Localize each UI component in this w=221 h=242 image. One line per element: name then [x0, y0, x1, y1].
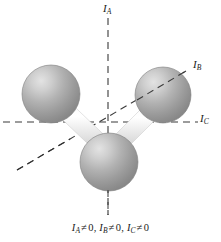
atom-right [135, 67, 191, 123]
atom-bottom [80, 133, 138, 191]
atoms [22, 65, 191, 191]
caption-separator-b: , [121, 222, 124, 233]
atom-left [22, 65, 80, 123]
axis-label-ic-subscript: C [204, 117, 209, 126]
axis-label-ia-subscript: A [107, 7, 112, 16]
molecule-figure: IA IB IC IA≠0, IB≠0, IC≠0 [0, 0, 221, 242]
caption-term-b: IB [99, 222, 108, 233]
caption-term-c: IC [127, 222, 136, 233]
axis-label-ib: IB [193, 58, 201, 70]
caption-subscript-b: B [103, 226, 108, 235]
caption-term-a: IA [72, 222, 81, 233]
axis-label-ib-subscript: B [197, 63, 202, 72]
caption-subscript-a: A [75, 226, 80, 235]
caption-value-c: 0 [144, 222, 149, 233]
axis-label-ia: IA [103, 2, 111, 14]
axis-label-ic: IC [200, 112, 209, 124]
caption-separator-a: , [94, 222, 97, 233]
caption-operator-b: ≠ [108, 222, 116, 233]
caption-subscript-c: C [131, 226, 136, 235]
figure-caption: IA≠0, IB≠0, IC≠0 [0, 222, 221, 233]
molecule-canvas [0, 0, 221, 242]
caption-operator-c: ≠ [136, 222, 144, 233]
axis-overlay-ib-left [17, 139, 70, 170]
